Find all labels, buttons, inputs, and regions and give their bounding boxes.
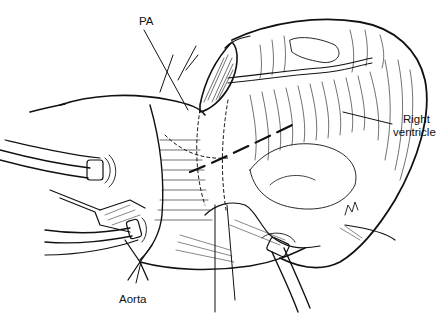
right-ventricle-label-line1: Right (393, 113, 436, 126)
right-ventricle-label-line2: ventricle (393, 126, 436, 139)
pa-label: PA (139, 15, 154, 28)
heart-line-drawing (0, 0, 445, 319)
heart-surgery-illustration: PA Right ventricle Aorta (0, 0, 445, 319)
aorta-label: Aorta (119, 293, 147, 306)
right-ventricle-label: Right ventricle (393, 113, 436, 139)
